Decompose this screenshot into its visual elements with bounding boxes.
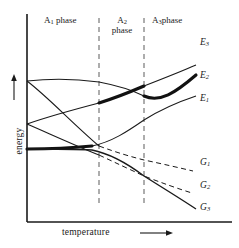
curve-label-G1-main: G	[200, 157, 207, 167]
curve-E3-stable-segment	[144, 75, 196, 98]
curve-label-E2: E2	[200, 71, 209, 81]
curve-label-E2-sub: 2	[206, 73, 209, 80]
y-axis-label: energy	[15, 111, 25, 171]
curve-G1-solid-part	[27, 81, 99, 146]
x-axis-arrow-icon	[140, 230, 173, 236]
phase-label-a1: A1 phase	[44, 16, 77, 26]
curve-label-G2-sub: 2	[207, 183, 210, 190]
curve-G2-dashed-part	[99, 155, 192, 193]
phase-label-a2-line2: phase	[104, 26, 140, 35]
x-axis-label: temperature	[62, 228, 110, 238]
curve-label-E3-sub: 3	[206, 40, 209, 47]
curve-label-E1-sub: 1	[206, 96, 209, 103]
curve-label-G2-main: G	[200, 180, 207, 190]
energy-temperature-phase-diagram: A1 phase A2 phase A3phase E3 E2 E1 G1 G2…	[0, 0, 239, 248]
phase-label-a1-tail: phase	[54, 15, 77, 25]
phase-label-a3-tail: phase	[162, 15, 183, 25]
curve-G1-dashed-part	[99, 146, 193, 171]
curve-label-G3-main: G	[200, 202, 207, 212]
phase-label-a2-sub: 2	[124, 18, 127, 25]
y-axis-arrow-icon	[11, 74, 17, 100]
curve-label-G1: G1	[200, 158, 210, 168]
phase-label-a2: A2 phase	[104, 16, 140, 35]
curve-G3	[27, 149, 196, 209]
curve-E2-stable-segment	[99, 86, 144, 103]
phase-label-a3: A3phase	[152, 16, 182, 26]
curve-label-G3: G3	[200, 203, 210, 213]
curve-label-G1-sub: 1	[207, 160, 210, 167]
curve-label-E3: E3	[200, 38, 209, 48]
curve-label-G2: G2	[200, 181, 210, 191]
curve-label-E1: E1	[200, 94, 209, 104]
curve-label-G3-sub: 3	[207, 205, 210, 212]
